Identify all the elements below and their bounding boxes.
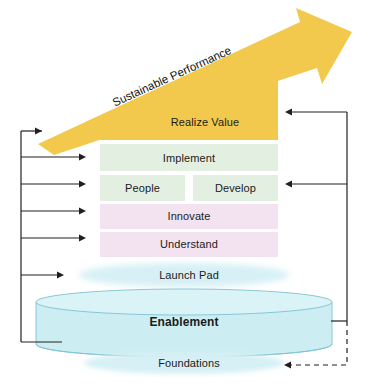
- implement-band: [100, 144, 278, 171]
- diagram-svg: [0, 0, 366, 386]
- develop-band: [193, 175, 278, 201]
- launch-pad-ellipse: [79, 263, 289, 287]
- right-feedback-connectors: [287, 112, 347, 321]
- innovate-band: [100, 204, 278, 229]
- enablement-cylinder: [36, 289, 332, 357]
- foundations-arrowhead: [284, 362, 291, 369]
- foundations-ellipse: [84, 352, 284, 374]
- right-arrowheads: [285, 109, 292, 188]
- diagram-canvas: Sustainable Performance Realize Value Im…: [0, 0, 366, 386]
- understand-band: [100, 232, 278, 257]
- people-band: [100, 175, 185, 201]
